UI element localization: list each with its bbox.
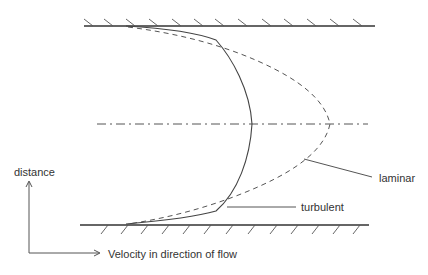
y-axis-label: distance	[14, 166, 55, 178]
turbulent-profile	[126, 26, 252, 224]
laminar-leader-line	[304, 159, 372, 177]
flow-velocity-diagram: laminar turbulent distance Velocity in d…	[0, 0, 428, 275]
bottom-wall	[80, 225, 369, 234]
turbulent-label: turbulent	[301, 201, 344, 213]
x-axis-label: Velocity in direction of flow	[108, 248, 237, 260]
top-wall	[84, 19, 375, 26]
laminar-label: laminar	[379, 172, 415, 184]
axes: distance Velocity in direction of flow	[14, 166, 237, 260]
top-wall-hatching	[84, 19, 362, 26]
bottom-wall-hatching	[101, 225, 360, 234]
